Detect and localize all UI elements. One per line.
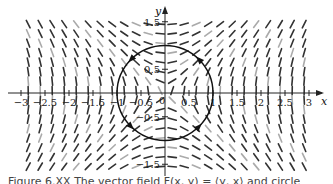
field-arrow: [168, 61, 176, 63]
field-arrow: [86, 125, 90, 133]
field-arrow: [231, 115, 234, 123]
field-arrow: [243, 58, 246, 66]
field-arrow: [97, 21, 103, 27]
x-tick-label: 2.5: [277, 97, 293, 108]
field-arrow: [168, 137, 176, 138]
field-arrow: [180, 32, 188, 35]
field-arrow: [256, 77, 257, 85]
field-arrow: [39, 39, 42, 47]
field-arrow: [109, 135, 114, 141]
field-arrow: [220, 96, 221, 104]
figure-caption: Figure 6.XX The vector field F(x, y) = ⟨…: [8, 176, 300, 184]
field-arrow: [229, 164, 235, 170]
field-arrow: [217, 154, 223, 159]
y-axis-arrow-icon: [162, 6, 168, 14]
field-arrow: [229, 154, 235, 160]
field-arrow: [110, 49, 115, 56]
field-arrow: [27, 58, 29, 66]
field-arrow: [302, 20, 306, 28]
field-arrow: [217, 164, 224, 169]
field-arrow: [156, 157, 164, 158]
field-arrow: [156, 80, 164, 83]
field-arrow: [27, 144, 30, 152]
field-arrow: [279, 115, 281, 123]
field-arrow: [279, 67, 281, 75]
field-arrow: [304, 67, 305, 75]
field-arrow: [87, 115, 90, 123]
field-arrow: [123, 77, 125, 85]
x-tick-label: −0.5: [129, 97, 153, 108]
field-arrow: [63, 125, 66, 133]
field-arrow: [135, 77, 138, 85]
field-arrow: [51, 115, 53, 123]
field-arrow: [38, 153, 42, 160]
field-arrow: [181, 60, 188, 64]
field-arrow: [52, 77, 53, 85]
field-arrow: [279, 125, 282, 133]
x-tick-label: −2.5: [33, 97, 57, 108]
field-arrow: [98, 135, 103, 142]
field-arrow: [291, 49, 294, 57]
field-arrow: [86, 135, 90, 142]
y-tick-label: 1.5: [144, 17, 160, 28]
field-arrow: [291, 58, 293, 66]
field-arrow: [241, 164, 247, 170]
field-arrow: [156, 61, 164, 62]
field-arrow: [303, 115, 305, 123]
field-arrow: [242, 49, 246, 56]
field-arrow: [39, 115, 41, 123]
field-arrow: [74, 30, 79, 37]
field-arrow: [169, 79, 176, 83]
field-arrow: [267, 134, 270, 142]
field-arrow: [27, 125, 29, 133]
field-arrow: [144, 146, 152, 148]
field-arrow: [268, 77, 269, 85]
field-arrow: [181, 69, 187, 75]
field-arrow: [121, 135, 127, 141]
vector-field-plot: x y 0 −3−2.5−2−1.5−1−0.50.511.522.53 1.5…: [0, 0, 333, 176]
field-arrow: [39, 134, 42, 142]
field-arrow: [144, 127, 152, 131]
field-arrow: [64, 77, 65, 85]
field-arrow: [62, 144, 66, 151]
field-arrow: [218, 115, 222, 123]
field-arrow: [302, 163, 306, 170]
field-arrow: [28, 67, 29, 75]
field-arrow: [242, 40, 247, 47]
field-arrow: [74, 39, 78, 46]
x-tick-label: −2: [62, 97, 77, 108]
field-arrow: [208, 96, 209, 104]
field-arrow: [97, 31, 103, 37]
field-arrow: [86, 144, 91, 151]
field-arrow: [110, 115, 114, 123]
field-arrow: [254, 21, 259, 28]
field-arrow: [62, 134, 65, 142]
field-arrow: [219, 68, 222, 76]
field-arrow: [256, 96, 257, 104]
field-arrow: [230, 135, 235, 142]
field-arrow: [205, 155, 212, 160]
x-axis-label: x: [321, 95, 328, 108]
field-arrow: [144, 156, 152, 158]
field-arrow: [168, 108, 176, 111]
field-arrow: [121, 40, 128, 45]
field-arrow: [111, 68, 114, 76]
field-arrow: [98, 125, 102, 132]
field-arrow: [205, 40, 211, 45]
field-arrow: [109, 164, 116, 169]
field-arrow: [63, 68, 65, 76]
field-arrow: [266, 163, 271, 170]
field-arrow: [39, 58, 41, 66]
field-arrow: [266, 30, 270, 37]
field-arrow: [267, 125, 270, 133]
field-arrow: [146, 78, 151, 85]
field-arrow: [180, 42, 188, 45]
field-arrow: [27, 115, 29, 123]
field-arrow: [304, 105, 305, 113]
field-arrow: [266, 39, 270, 47]
field-arrow: [182, 78, 186, 85]
field-arrow: [230, 49, 234, 56]
field-arrow: [267, 68, 269, 76]
field-arrow: [231, 77, 232, 85]
field-arrow: [121, 165, 128, 169]
